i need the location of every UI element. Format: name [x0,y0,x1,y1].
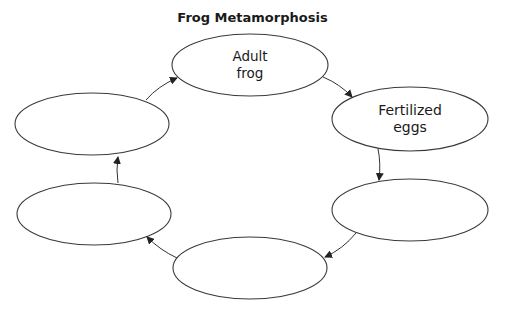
adult-frog-label: Adult frog [190,48,310,82]
arrow-lowerleft-to-upperleft [117,157,118,183]
arrow-adult-to-eggs [323,77,352,97]
arrow-bottom-to-lowerleft [147,237,177,258]
frog-metamorphosis-diagram: Frog Metamorphosis Adult frog Fert [0,0,505,317]
node-blank-upper-left [15,93,169,155]
fertilized-eggs-label-line2: eggs [350,119,470,136]
fertilized-eggs-label-line1: Fertilized [350,102,470,119]
arrow-lowerright-to-bottom [325,233,356,257]
node-blank-bottom [173,237,327,299]
arrow-upperleft-to-adult [146,78,177,100]
adult-frog-label-line2: frog [190,65,310,82]
fertilized-eggs-label: Fertilized eggs [350,102,470,136]
node-blank-lower-right [332,179,488,241]
node-blank-lower-left [17,183,171,245]
adult-frog-label-line1: Adult [190,48,310,65]
arrow-eggs-to-lowerright [378,149,380,180]
